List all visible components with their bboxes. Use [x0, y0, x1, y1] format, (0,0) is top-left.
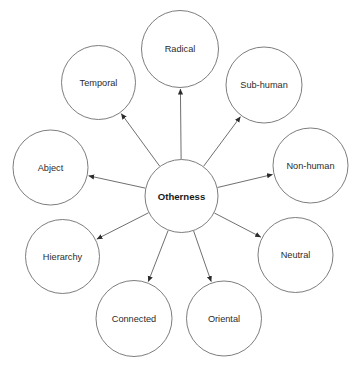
center-node[interactable]: Otherness — [145, 160, 218, 233]
node-temporal-label: Temporal — [80, 78, 118, 88]
node-sub-human[interactable]: Sub-human — [226, 47, 302, 123]
node-non-human[interactable]: Non-human — [273, 128, 348, 203]
concept-map-diagram: RadicalSub-humanNon-humanNeutralOriental… — [0, 0, 359, 366]
edge-otherness-to-abject — [89, 176, 146, 188]
center-node-label: Otherness — [158, 191, 205, 202]
node-hierarchy-label: Hierarchy — [43, 252, 83, 262]
node-oriental-label: Oriental — [208, 314, 240, 324]
node-neutral-label: Neutral — [281, 250, 311, 260]
node-oriental[interactable]: Oriental — [187, 281, 262, 356]
node-connected-label: Connected — [112, 314, 156, 324]
node-sub-human-label: Sub-human — [240, 80, 288, 90]
edge-otherness-to-connected — [148, 230, 168, 281]
node-hierarchy[interactable]: Hierarchy — [26, 220, 100, 294]
concept-map-canvas: RadicalSub-humanNon-humanNeutralOriental… — [0, 0, 359, 366]
edge-otherness-to-oriental — [194, 231, 212, 282]
edge-otherness-to-non-human — [218, 174, 273, 187]
edge-otherness-to-neutral — [214, 213, 261, 237]
node-connected[interactable]: Connected — [96, 281, 172, 357]
node-radical[interactable]: Radical — [142, 11, 219, 88]
node-abject[interactable]: Abject — [13, 130, 88, 205]
node-abject-label: Abject — [38, 163, 64, 173]
node-radical-label: Radical — [165, 44, 196, 54]
edge-otherness-to-sub-human — [204, 117, 241, 167]
edge-otherness-to-hierarchy — [97, 213, 149, 239]
node-neutral[interactable]: Neutral — [258, 218, 333, 293]
edge-otherness-to-temporal — [121, 114, 159, 167]
node-non-human-label: Non-human — [286, 161, 334, 171]
edge-otherness-to-radical — [180, 89, 181, 159]
node-temporal[interactable]: Temporal — [62, 46, 136, 120]
